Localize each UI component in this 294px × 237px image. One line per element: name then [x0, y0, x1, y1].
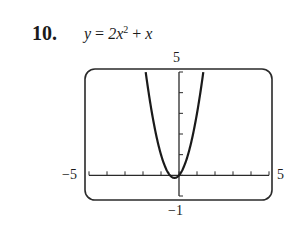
axes: [89, 72, 269, 196]
graph-svg: [0, 0, 294, 237]
parabola-curve: [146, 72, 204, 178]
